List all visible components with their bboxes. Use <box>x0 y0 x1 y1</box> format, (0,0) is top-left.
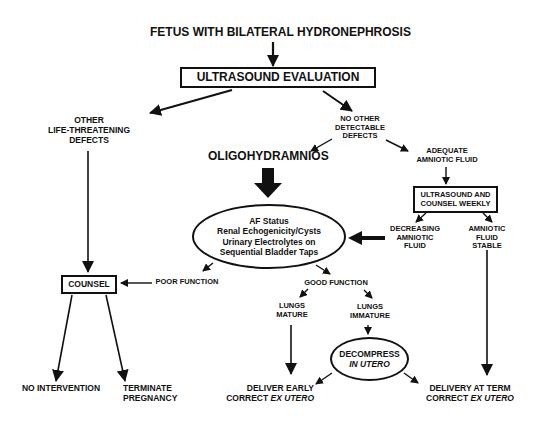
assessment-ellipse: AF Status Renal Echogenicity/Cysts Urina… <box>192 204 346 269</box>
arrow-to-adequate <box>386 140 408 151</box>
arrow-eval-to-no-other <box>323 91 352 111</box>
assessment-line1: AF Status <box>249 216 289 226</box>
ultrasound-counsel-weekly-box: ULTRASOUND AND COUNSEL WEEKLY <box>413 186 498 213</box>
deliver-early-italic: EX UTERO <box>271 393 314 403</box>
delivery-term-italic: EX UTERO <box>470 393 513 403</box>
counsel-box: COUNSEL <box>61 275 117 294</box>
decompress-line1: DECOMPRESS <box>339 349 399 359</box>
lungs-mature-line2: MATURE <box>272 311 312 320</box>
thick-arrow-left <box>348 231 362 245</box>
arrow-to-terminate <box>106 295 125 381</box>
adequate-line2: AMNIOTIC FLUID <box>412 156 482 165</box>
decompress-ellipse: DECOMPRESS IN UTERO <box>330 337 409 381</box>
oligohydramnios-label: OLIGOHYDRAMNIOS <box>208 150 328 164</box>
terminate-line2: PREGNANCY <box>123 394 187 404</box>
deliver-early-prefix: CORRECT <box>226 393 270 403</box>
fluid-stable-label: AMNIOTIC FLUID STABLE <box>462 225 512 251</box>
lungs-mature-label: LUNGS MATURE <box>272 302 312 319</box>
lungs-immature-line2: IMMATURE <box>348 312 392 321</box>
arrow-to-decreasing <box>416 213 426 222</box>
other-defects-line3: DEFECTS <box>44 136 134 146</box>
delivery-term-line2: CORRECT EX UTERO <box>420 394 520 404</box>
arrow-to-lungs-immature <box>364 290 372 298</box>
poor-function-label: POOR FUNCTION <box>154 278 220 287</box>
lungs-immature-label: LUNGS IMMATURE <box>348 303 392 320</box>
arrow-to-poor-function <box>203 263 213 271</box>
other-defects-label: OTHER LIFE-THREATENING DEFECTS <box>44 116 134 145</box>
arrow-to-stable <box>483 213 492 222</box>
arrow-to-lungs-mature <box>300 289 308 297</box>
decompress-line2: IN UTERO <box>349 359 390 369</box>
terminate-pregnancy-label: TERMINATE PREGNANCY <box>123 384 187 404</box>
us-counsel-line2: COUNSEL WEEKLY <box>420 200 490 209</box>
arrow-decompress-to-term <box>404 373 418 383</box>
no-other-defects-label: NO OTHER DETECTABLE DEFECTS <box>330 115 390 141</box>
thick-arrow-down <box>254 168 282 198</box>
no-intervention-label: NO INTERVENTION <box>16 384 106 394</box>
arrow-decompress-to-early <box>316 373 332 384</box>
deliver-early-line2: CORRECT EX UTERO <box>218 394 314 404</box>
arrow-eval-to-other-defects <box>150 90 232 113</box>
delivery-term-prefix: CORRECT <box>426 393 470 403</box>
assessment-line3: Urinary Electrolytes on <box>222 237 315 247</box>
no-other-line3: DEFECTS <box>330 132 390 141</box>
arrow-to-no-intervention <box>56 295 72 381</box>
assessment-line4: Sequential Bladder Taps <box>220 247 319 257</box>
decreasing-fluid-label: DECREASING AMNIOTIC FLUID <box>384 225 446 251</box>
decreasing-line3: FLUID <box>384 242 446 251</box>
assessment-line2: Renal Echogenicity/Cysts <box>217 226 321 236</box>
stable-line3: STABLE <box>462 242 512 251</box>
diagram-title: FETUS WITH BILATERAL HYDRONEPHROSIS <box>150 26 396 40</box>
good-function-label: GOOD FUNCTION <box>302 279 370 288</box>
deliver-early-label: DELIVER EARLY CORRECT EX UTERO <box>218 384 314 404</box>
delivery-term-label: DELIVERY AT TERM CORRECT EX UTERO <box>420 384 520 404</box>
arrow-to-good-function <box>316 265 330 274</box>
adequate-fluid-label: ADEQUATE AMNIOTIC FLUID <box>412 147 482 164</box>
ultrasound-evaluation-box: ULTRASOUND EVALUATION <box>180 67 376 88</box>
